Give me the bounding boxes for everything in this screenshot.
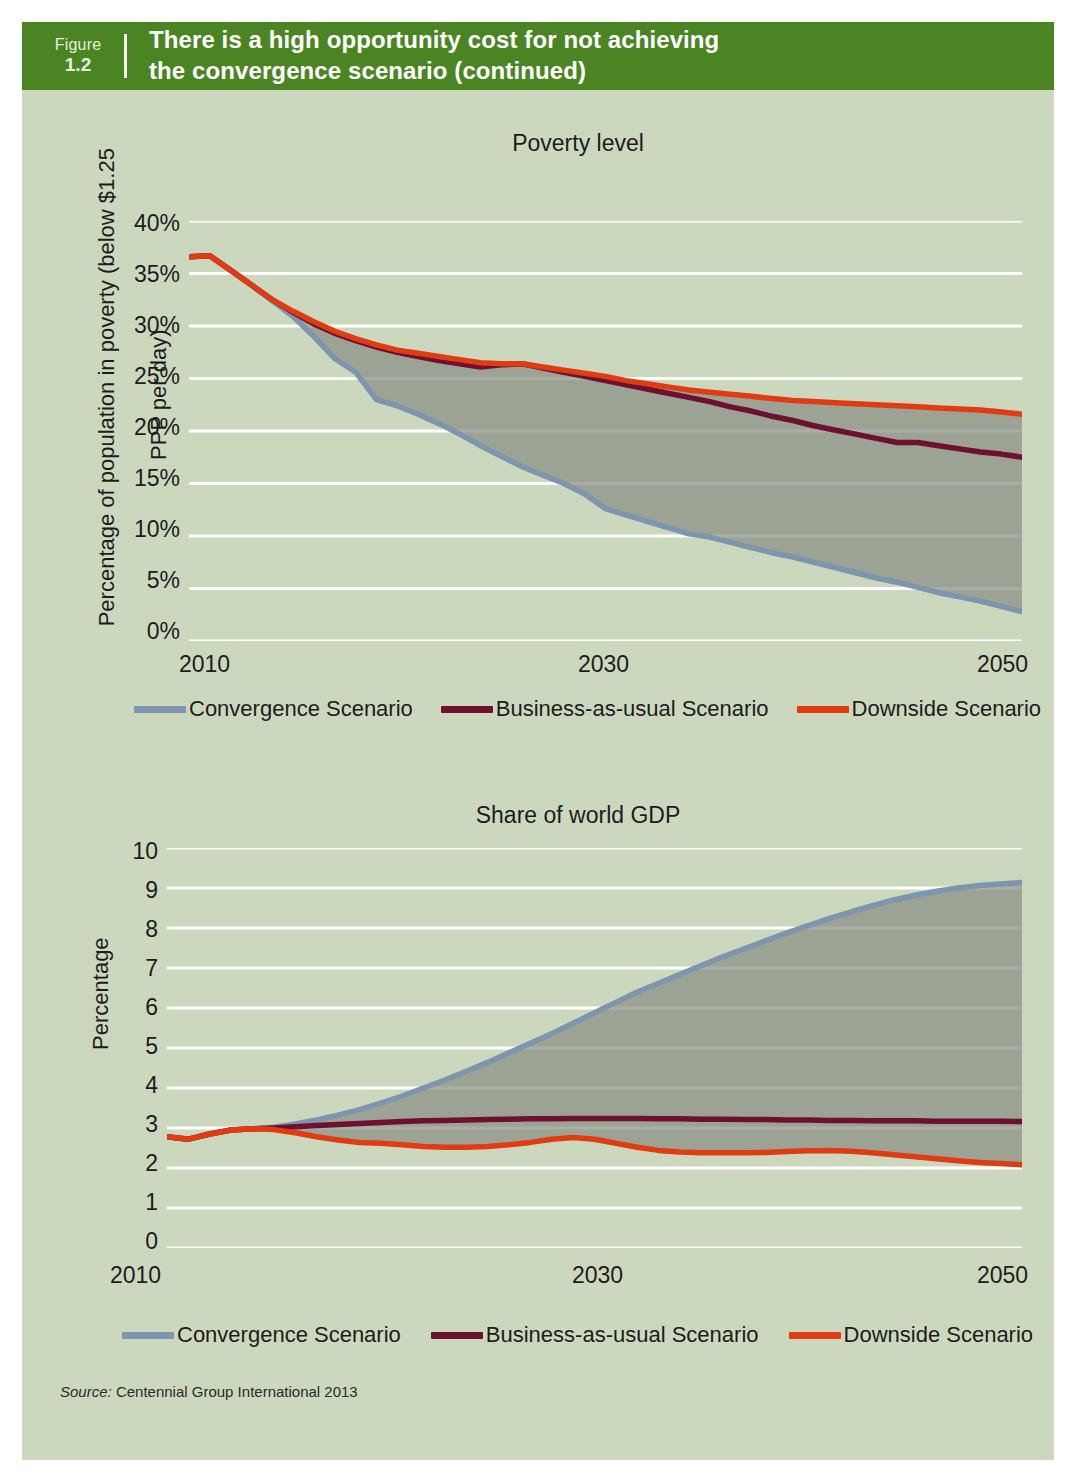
source-label: Source:: [60, 1383, 112, 1400]
scenario-band-poverty: [189, 256, 1022, 612]
figure-number: 1.2: [32, 54, 124, 76]
y-tick-poverty-1: 35%: [92, 261, 180, 288]
source-note: Source: Centennial Group International 2…: [60, 1383, 358, 1400]
legend-item-business-as-usual[interactable]: Business-as-usual Scenario: [441, 696, 769, 722]
y-tick-gdp-5: 5: [92, 1033, 158, 1060]
legend-label-convergence: Convergence Scenario: [189, 696, 413, 722]
legend-poverty: Convergence Scenario Business-as-usual S…: [134, 696, 1041, 722]
legend-item-convergence-gdp[interactable]: Convergence Scenario: [122, 1322, 401, 1348]
legend-item-convergence[interactable]: Convergence Scenario: [134, 696, 413, 722]
figure-page: Figure 1.2 There is a high opportunity c…: [22, 22, 1054, 1460]
plot-area-gdp: [167, 848, 1022, 1248]
legend-swatch-convergence-icon: [134, 706, 186, 713]
legend-swatch-convergence-icon: [122, 1332, 174, 1339]
x-tick-gdp-2010: 2010: [110, 1262, 161, 1289]
y-tick-gdp-9: 1: [92, 1189, 158, 1216]
legend-swatch-business-as-usual-icon: [441, 706, 493, 713]
chart-share-of-world-gdp: Share of world GDP Percentage 10 9 8 7 6…: [22, 792, 1054, 1382]
y-tick-poverty-5: 15%: [92, 465, 180, 492]
y-tick-poverty-7: 5%: [92, 567, 180, 594]
x-tick-poverty-2030: 2030: [578, 651, 629, 678]
y-tick-gdp-1: 9: [92, 877, 158, 904]
chart-title-gdp: Share of world GDP: [138, 802, 1018, 829]
legend-item-downside[interactable]: Downside Scenario: [797, 696, 1042, 722]
legend-swatch-downside-icon: [797, 706, 849, 713]
chart-title-poverty: Poverty level: [138, 130, 1018, 157]
x-tick-poverty-2050: 2050: [977, 651, 1028, 678]
legend-item-downside-gdp[interactable]: Downside Scenario: [789, 1322, 1034, 1348]
y-tick-poverty-4: 20%: [92, 414, 180, 441]
figure-banner: Figure 1.2 There is a high opportunity c…: [22, 22, 1054, 90]
legend-swatch-downside-icon: [789, 1332, 841, 1339]
source-text: Centennial Group International 2013: [116, 1383, 358, 1400]
figure-title-line-1: There is a high opportunity cost for not…: [149, 25, 719, 56]
y-tick-gdp-8: 2: [92, 1150, 158, 1177]
legend-label-business-as-usual-gdp: Business-as-usual Scenario: [486, 1322, 759, 1348]
y-tick-gdp-3: 7: [92, 955, 158, 982]
legend-label-downside-gdp: Downside Scenario: [844, 1322, 1034, 1348]
legend-label-downside: Downside Scenario: [852, 696, 1042, 722]
y-tick-gdp-6: 4: [92, 1072, 158, 1099]
figure-number-block: Figure 1.2: [22, 36, 124, 76]
x-tick-gdp-2050: 2050: [977, 1262, 1028, 1289]
legend-gdp: Convergence Scenario Business-as-usual S…: [122, 1322, 1033, 1348]
figure-word: Figure: [32, 36, 124, 54]
legend-item-business-as-usual-gdp[interactable]: Business-as-usual Scenario: [431, 1322, 759, 1348]
legend-label-business-as-usual: Business-as-usual Scenario: [496, 696, 769, 722]
x-tick-poverty-2010: 2010: [179, 651, 230, 678]
y-tick-poverty-2: 30%: [92, 312, 180, 339]
figure-title-line-2: the convergence scenario (continued): [149, 56, 719, 87]
figure-title: There is a high opportunity cost for not…: [127, 25, 719, 86]
legend-label-convergence-gdp: Convergence Scenario: [177, 1322, 401, 1348]
y-tick-gdp-7: 3: [92, 1111, 158, 1138]
y-tick-poverty-3: 25%: [92, 363, 180, 390]
x-tick-gdp-2030: 2030: [572, 1262, 623, 1289]
y-tick-poverty-6: 10%: [92, 516, 180, 543]
legend-swatch-business-as-usual-icon: [431, 1332, 483, 1339]
chart-poverty-level: Poverty level Percentage of population i…: [22, 118, 1054, 738]
y-tick-gdp-4: 6: [92, 994, 158, 1021]
banner-divider: [124, 34, 127, 78]
y-tick-gdp-10: 0: [92, 1228, 158, 1255]
plot-area-poverty: [189, 221, 1022, 641]
y-tick-poverty-0: 40%: [92, 210, 180, 237]
y-tick-gdp-2: 8: [92, 916, 158, 943]
y-tick-gdp-0: 10: [92, 838, 158, 865]
y-tick-poverty-8: 0%: [92, 618, 180, 645]
